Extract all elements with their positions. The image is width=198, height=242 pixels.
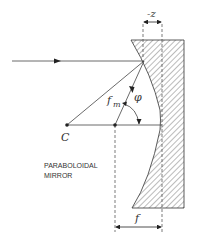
ray-to-center xyxy=(67,61,144,125)
phi-label: φ xyxy=(134,91,142,104)
fm-subscript: m xyxy=(113,100,121,109)
center-point xyxy=(65,123,69,127)
paraboloidal-mirror-diagram: -z f C f m φ PARABOLOIDAL MIRROR xyxy=(0,0,198,242)
f-label: f xyxy=(134,212,141,225)
mirror-label-line2: MIRROR xyxy=(44,172,72,179)
angle-arc-arrow-start-icon xyxy=(122,102,127,107)
focus-point xyxy=(113,123,117,127)
incoming-ray-arrow-icon xyxy=(54,59,61,64)
mirror-label-line1: PARABOLOIDAL xyxy=(44,162,98,169)
angle-phi-arc xyxy=(124,104,139,124)
angle-arc-arrow-end-icon xyxy=(137,119,142,125)
z-label: -z xyxy=(147,8,156,19)
fm-label: f xyxy=(106,94,113,107)
center-label: C xyxy=(61,131,70,144)
